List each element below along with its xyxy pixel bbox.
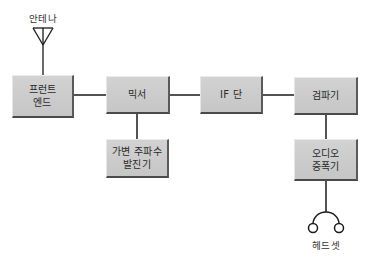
block-audio-amp: 오디오 증폭기 bbox=[294, 139, 358, 181]
block-detector: 검파기 bbox=[294, 77, 358, 115]
block-audio-amp-line-1: 오디오 bbox=[312, 147, 340, 160]
wires-layer bbox=[0, 0, 370, 260]
block-front-end-line-1: 프런트 bbox=[29, 83, 57, 96]
headset-icon bbox=[309, 212, 344, 233]
block-front-end: 프런트 엔드 bbox=[12, 75, 74, 118]
block-mixer: 믹서 bbox=[106, 76, 170, 114]
block-vfo-line-1: 가변 주파수 bbox=[112, 145, 162, 158]
block-mixer-line-1: 믹서 bbox=[128, 88, 147, 101]
block-if-stage-line-1: IF 단 bbox=[220, 88, 242, 101]
block-detector-line-1: 검파기 bbox=[312, 89, 340, 102]
receiver-block-diagram: 안테나 프런트 엔드 믹서 가변 주파수 발진기 IF 단 검파기 오디오 증폭… bbox=[0, 0, 370, 260]
headset-label: 헤드셋 bbox=[312, 238, 340, 252]
block-audio-amp-line-2: 증폭기 bbox=[312, 160, 340, 173]
block-vfo-line-2: 발진기 bbox=[123, 158, 151, 171]
block-if-stage: IF 단 bbox=[200, 76, 263, 114]
block-front-end-line-2: 엔드 bbox=[33, 96, 52, 109]
antenna-label: 안테나 bbox=[29, 11, 57, 25]
block-vfo: 가변 주파수 발진기 bbox=[106, 139, 169, 178]
antenna-icon bbox=[33, 28, 53, 76]
